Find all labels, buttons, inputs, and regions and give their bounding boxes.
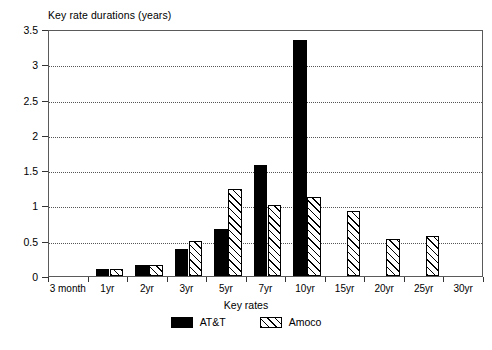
bar-att-1yr xyxy=(96,269,110,276)
x-axis-tick xyxy=(285,277,286,282)
x-axis-tick xyxy=(206,277,207,282)
x-axis-tick xyxy=(325,277,326,282)
x-axis-tick xyxy=(127,277,128,282)
chart-legend: AT&T Amoco xyxy=(0,316,492,328)
x-axis-tick-label: 1yr xyxy=(100,283,114,294)
y-axis-tick xyxy=(42,206,48,207)
x-axis-tick-label: 15yr xyxy=(335,283,354,294)
y-axis-tick xyxy=(42,242,48,243)
y-axis-tick xyxy=(42,171,48,172)
bar-att-2yr xyxy=(135,265,149,276)
y-axis-tick-label: 0 xyxy=(0,271,38,283)
gridline xyxy=(49,66,482,67)
x-axis-tick xyxy=(48,277,49,282)
chart-title: Key rate durations (years) xyxy=(48,9,171,21)
x-axis-title: Key rates xyxy=(0,299,492,311)
bar-amoco-10yr xyxy=(307,197,321,276)
x-axis-tick-label: 3 month xyxy=(50,283,86,294)
x-axis-tick xyxy=(167,277,168,282)
x-axis-tick-label: 10yr xyxy=(295,283,314,294)
gridline xyxy=(49,137,482,138)
y-axis-tick xyxy=(42,30,48,31)
plot-inner xyxy=(49,31,482,276)
x-axis-tick-label: 30yr xyxy=(453,283,472,294)
x-axis-tick xyxy=(404,277,405,282)
y-axis-tick-label: 1 xyxy=(0,200,38,212)
x-axis-tick-label: 7yr xyxy=(259,283,273,294)
y-axis-tick-label: 2 xyxy=(0,130,38,142)
plot-area xyxy=(48,30,483,277)
legend-entry-att: AT&T xyxy=(171,316,226,328)
y-axis-labels: 00.511.522.533.5 xyxy=(0,0,38,350)
x-axis-tick xyxy=(246,277,247,282)
legend-swatch-att-icon xyxy=(171,317,193,328)
x-axis-tick-label: 3yr xyxy=(179,283,193,294)
y-axis-tick-label: 2.5 xyxy=(0,95,38,107)
legend-label-amoco: Amoco xyxy=(289,316,322,328)
bar-amoco-7yr xyxy=(268,205,282,276)
x-axis-tick-label: 2yr xyxy=(140,283,154,294)
gridline xyxy=(49,102,482,103)
legend-swatch-amoco-icon xyxy=(260,317,282,328)
x-axis-tick-label: 20yr xyxy=(374,283,393,294)
x-axis-tick-label: 5yr xyxy=(219,283,233,294)
y-axis-tick-label: 3 xyxy=(0,59,38,71)
y-axis-tick xyxy=(42,65,48,66)
y-axis-tick xyxy=(42,136,48,137)
x-axis-tick xyxy=(364,277,365,282)
bar-amoco-5yr xyxy=(228,189,242,277)
y-axis-tick xyxy=(42,101,48,102)
x-axis-tick xyxy=(483,277,484,282)
legend-entry-amoco: Amoco xyxy=(260,316,322,328)
y-axis-tick-label: 1.5 xyxy=(0,165,38,177)
bar-amoco-15yr xyxy=(347,211,361,276)
y-axis-tick-label: 0.5 xyxy=(0,236,38,248)
key-rate-durations-chart: Key rate durations (years) 00.511.522.53… xyxy=(0,0,492,350)
x-axis-tick xyxy=(443,277,444,282)
bar-amoco-25yr xyxy=(426,236,440,276)
y-axis-tick-label: 3.5 xyxy=(0,24,38,36)
bar-att-10yr xyxy=(293,40,307,276)
bar-att-7yr xyxy=(254,165,268,276)
bar-amoco-3yr xyxy=(189,241,203,276)
x-axis-tick-label: 25yr xyxy=(414,283,433,294)
bar-amoco-1yr xyxy=(110,269,124,276)
bar-amoco-20yr xyxy=(386,239,400,276)
bar-att-3yr xyxy=(175,249,189,276)
bar-att-5yr xyxy=(214,229,228,276)
x-axis-tick xyxy=(88,277,89,282)
legend-label-att: AT&T xyxy=(200,316,226,328)
bar-amoco-2yr xyxy=(149,265,163,276)
